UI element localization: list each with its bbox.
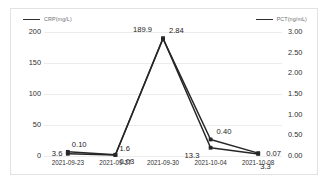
y-axis-left: 050100150200	[17, 32, 41, 156]
data-point-crp[interactable]	[209, 146, 213, 150]
legend-line-icon-pct	[256, 19, 273, 20]
data-point-pct[interactable]	[256, 151, 260, 155]
data-point-pct[interactable]	[66, 150, 70, 154]
y-axis-right-tick: 2.00	[288, 69, 302, 76]
legend-label-crp: CRP(mg/L)	[44, 16, 72, 22]
y-axis-right-tick: 3.00	[288, 28, 302, 35]
data-point-pct[interactable]	[114, 153, 118, 157]
data-point-pct[interactable]	[161, 37, 165, 41]
x-axis-tick: 2021-09-27	[99, 160, 131, 166]
y-axis-left-tick: 50	[33, 121, 41, 128]
y-axis-left-tick: 0	[37, 152, 41, 159]
y-axis-right-tick: 2.50	[288, 49, 302, 56]
gridline	[44, 156, 282, 157]
data-label-crp: 3.6	[52, 150, 63, 158]
x-axis-tick: 2021-10-04	[194, 160, 226, 166]
y-axis-right-tick: 0.50	[288, 131, 302, 138]
data-label-crp: 189.9	[133, 26, 152, 34]
y-axis-left-tick: 200	[29, 28, 41, 35]
y-axis-left-tick: 150	[29, 59, 41, 66]
line-pct	[68, 39, 258, 155]
x-axis-tick: 2021-09-30	[147, 160, 179, 166]
data-label-pct: 0.07	[266, 150, 281, 158]
data-label-crp: 1.6	[119, 145, 130, 153]
legend-item-pct[interactable]: PCT(ng/mL)	[256, 16, 307, 22]
x-axis: 2021-09-232021-09-272021-09-302021-10-04…	[44, 160, 282, 172]
line-crp	[68, 38, 258, 155]
data-label-pct: 2.84	[169, 27, 184, 35]
y-axis-right: 0.000.501.001.502.002.503.00	[288, 32, 318, 156]
plot-area: 3.61.6189.913.33.30.100.032.840.400.07	[44, 32, 282, 156]
x-axis-tick: 2021-10-08	[242, 160, 274, 166]
legend-line-icon-crp	[23, 19, 40, 20]
legend-label-pct: PCT(ng/mL)	[277, 16, 307, 22]
y-axis-left-tick: 100	[29, 90, 41, 97]
y-axis-right-tick: 1.00	[288, 111, 302, 118]
y-axis-right-tick: 1.50	[288, 90, 302, 97]
data-point-pct[interactable]	[209, 138, 213, 142]
data-label-pct: 0.10	[72, 141, 87, 149]
chart-card: CRP(mg/L) PCT(ng/mL) 050100150200 0.000.…	[10, 8, 318, 175]
y-axis-right-tick: 0.00	[288, 152, 302, 159]
x-axis-tick: 2021-09-23	[52, 160, 84, 166]
legend-item-crp[interactable]: CRP(mg/L)	[23, 16, 72, 22]
data-label-pct: 0.40	[217, 128, 232, 136]
series-lines	[44, 32, 282, 156]
